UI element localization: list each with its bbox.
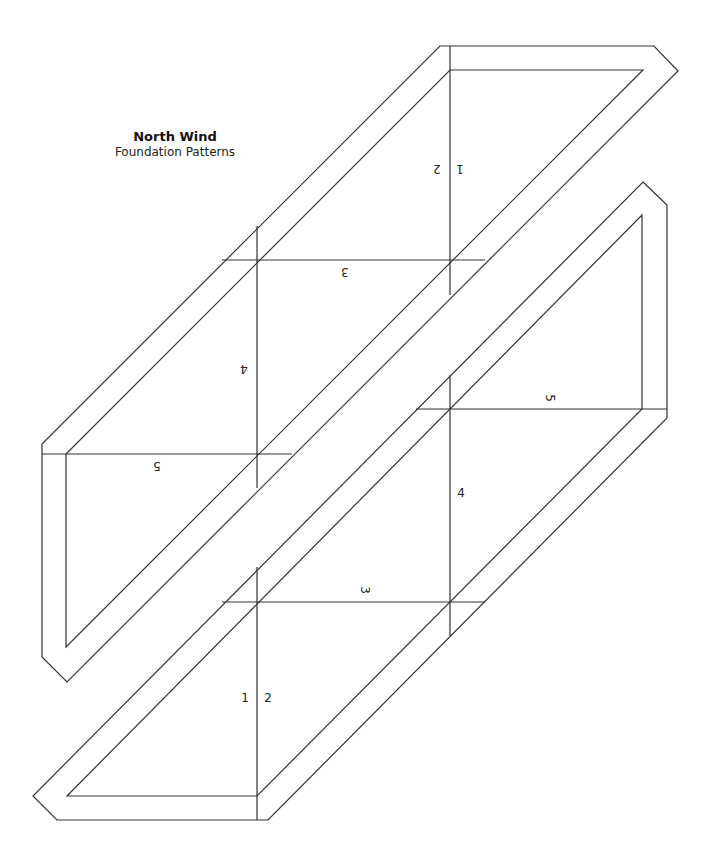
piece-b-outer-seam — [33, 182, 667, 820]
label-a3: 3 — [341, 265, 349, 279]
piece-a-inner-sewline — [66, 70, 643, 647]
label-b3: 3 — [358, 586, 372, 594]
label-a2: 2 — [433, 162, 441, 176]
label-a5: 5 — [153, 459, 161, 473]
piece-b — [33, 182, 667, 820]
label-b5: 5 — [543, 394, 557, 402]
label-b1: 1 — [241, 691, 249, 705]
label-b4: 4 — [457, 486, 465, 500]
piece-b-inner-sewline — [67, 215, 642, 796]
foundation-pattern-diagram: 1 2 3 4 5 5 4 3 1 2 — [0, 0, 714, 861]
label-a4: 4 — [240, 362, 248, 376]
label-a1: 1 — [456, 162, 464, 176]
label-b2: 2 — [264, 691, 272, 705]
